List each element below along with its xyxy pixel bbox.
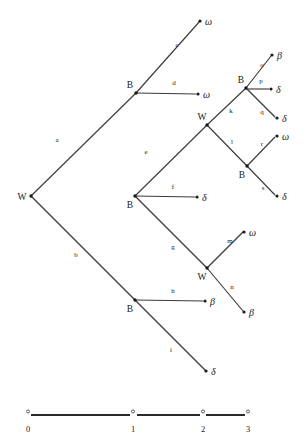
tip-node-dot (270, 53, 273, 56)
tree-branch (135, 300, 203, 301)
branch-label: p (259, 77, 263, 85)
internal-node-label: B (239, 170, 245, 180)
scale-bar-tick-label: 0 (26, 424, 30, 434)
branch-label: o (260, 61, 264, 69)
branch-label: h (171, 287, 175, 295)
tip-label: δ (202, 192, 207, 203)
internal-node-label: W (198, 272, 207, 282)
scale-bar-tick-label: 2 (201, 424, 205, 434)
internal-node-dot (133, 194, 136, 197)
tree-branch (31, 196, 135, 300)
branch-label: c (175, 41, 178, 49)
tip-label: β (248, 307, 254, 318)
tip-label: ω (205, 16, 212, 27)
branch-label: q (260, 108, 264, 116)
tip-node-dot (275, 134, 278, 137)
internal-node-dot (133, 298, 136, 301)
internal-node-dot (134, 91, 137, 94)
branch-label: d (172, 79, 176, 87)
tip-label: ω (203, 89, 210, 100)
tip-label: β (209, 296, 215, 307)
tip-node-dot (275, 116, 278, 119)
internal-node-dot (205, 123, 208, 126)
internal-node-label: B (127, 200, 133, 210)
tip-label: δ (282, 191, 287, 202)
tree-branch (31, 93, 136, 196)
branch-label: g (171, 243, 175, 251)
tip-label: δ (276, 84, 281, 95)
tip-node-dot (242, 230, 245, 233)
branch-label: s (262, 184, 265, 192)
branch-label: b (74, 251, 78, 259)
internal-node-dot (29, 194, 32, 197)
branch-label: i (170, 346, 172, 354)
tip-label: β (276, 50, 282, 61)
internal-node-label: W (18, 192, 27, 202)
internal-node-label: B (238, 75, 244, 85)
tree-branch (135, 196, 195, 197)
tree-branch (135, 300, 206, 371)
tip-label: δ (211, 366, 216, 377)
branch-label: m (227, 237, 233, 245)
scale-bar-group: 0123 (26, 410, 250, 434)
tree-branch (207, 88, 246, 125)
scale-bar-tick-marker (247, 410, 250, 413)
tip-label: δ (282, 113, 287, 124)
internal-node-dot (244, 86, 247, 89)
tree-branch (136, 93, 196, 94)
tip-label: ω (282, 131, 289, 142)
branch-label: f (172, 183, 175, 191)
branch-label: k (229, 107, 233, 115)
branch-label: e (144, 148, 147, 156)
tip-node-dot (275, 194, 278, 197)
tip-node-dot (195, 195, 198, 198)
internal-node-dot (245, 164, 248, 167)
tree-branch (136, 21, 200, 93)
tree-branches-group (31, 21, 275, 371)
tip-node-dot (196, 92, 199, 95)
tree-tips-group: ωωβδδωδδωββδ (195, 16, 289, 377)
tip-node-dot (242, 310, 245, 313)
tip-node-dot (269, 87, 272, 90)
internal-node-dot (205, 266, 208, 269)
scale-bar-tick-label: 1 (131, 424, 135, 434)
tree-canvas: abcdefghiklmnopqrs WBBWBBBW ωωβδδωδδωββδ… (0, 0, 308, 438)
tree-branch-labels-group: abcdefghiklmnopqrs (55, 41, 264, 354)
scale-bar-tick-marker (27, 410, 30, 413)
tip-node-dot (198, 19, 201, 22)
internal-node-label: W (198, 112, 207, 122)
internal-node-label: B (127, 304, 133, 314)
phylogenetic-tree-figure: abcdefghiklmnopqrs WBBWBBBW ωωβδδωδδωββδ… (0, 0, 308, 438)
branch-label: r (261, 140, 264, 148)
tip-node-dot (203, 299, 206, 302)
tree-branch (207, 232, 243, 268)
branch-label: n (230, 283, 234, 291)
internal-node-label: B (127, 80, 133, 90)
scale-bar-tick-label: 3 (246, 424, 250, 434)
branch-label: l (231, 138, 233, 146)
tip-node-dot (204, 369, 207, 372)
tree-branch (207, 125, 247, 166)
scale-bar-tick-marker (132, 410, 135, 413)
tip-label: ω (249, 227, 256, 238)
tree-branch (135, 196, 207, 268)
scale-bar-tick-marker (202, 410, 205, 413)
tree-internal-nodes-group: WBBWBBBW (18, 75, 249, 314)
branch-label: a (55, 136, 59, 144)
